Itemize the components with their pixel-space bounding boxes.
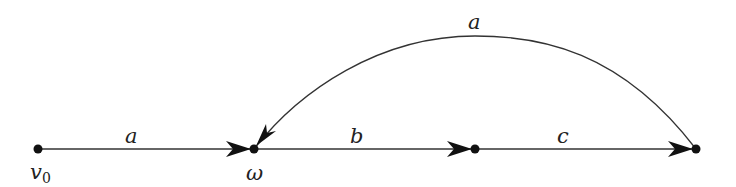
node-label-omega: ω [246,161,263,185]
node-label-v0: v0 [30,160,51,186]
edge-label-b: b [350,124,363,148]
node-n3 [692,145,701,154]
graph-diagram: a b c a v0 ω [0,0,736,187]
edge-label-a: a [125,124,138,148]
node-n2 [471,145,480,154]
node-omega [250,145,259,154]
edge-label-a-curved: a [468,10,481,34]
edge-label-c: c [557,124,569,148]
edge-n3-omega-curved [254,36,696,149]
node-v0 [34,145,43,154]
